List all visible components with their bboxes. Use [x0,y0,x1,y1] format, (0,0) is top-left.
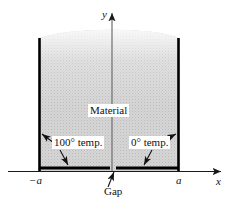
figure-semi-infinite-strip: Material 100° temp. 0° temp. Gap −a a x … [0,0,234,207]
label-temperature-right: 0° temp. [129,136,170,149]
material-region [39,30,179,171]
label-tick-minus-a: −a [29,175,42,186]
label-material: Material [88,104,129,117]
label-temperature-left: 100° temp. [52,136,104,149]
label-gap: Gap [104,186,122,197]
label-tick-a: a [176,175,182,186]
label-y-axis: y [102,9,107,20]
label-x-axis: x [216,176,221,187]
